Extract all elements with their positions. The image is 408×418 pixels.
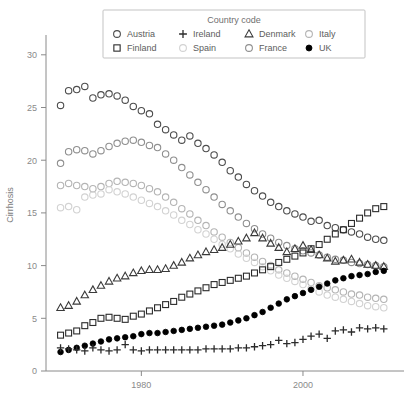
x-tick-label: 1980 <box>131 380 151 390</box>
data-point <box>324 222 330 228</box>
data-point <box>243 273 249 279</box>
data-point <box>162 265 169 272</box>
data-point <box>292 211 298 217</box>
data-point <box>324 236 330 242</box>
data-point <box>139 331 145 337</box>
data-point <box>283 340 290 347</box>
chart-root: 05101520253019802000Cirrhosis Country co… <box>0 0 408 418</box>
axes-layer: 05101520253019802000Cirrhosis <box>5 35 404 390</box>
data-point <box>324 281 330 287</box>
data-point <box>97 282 104 289</box>
data-point <box>211 282 217 288</box>
data-point <box>162 346 169 353</box>
data-point <box>348 291 354 297</box>
data-point <box>114 140 120 146</box>
data-point <box>211 236 217 242</box>
legend-item-label: Ireland <box>193 29 221 39</box>
data-point <box>186 346 193 353</box>
data-point <box>227 168 233 174</box>
data-point <box>251 188 257 194</box>
data-point <box>146 346 153 353</box>
data-point <box>364 325 371 332</box>
data-point <box>179 294 185 300</box>
data-point <box>106 91 112 97</box>
data-point <box>130 194 136 200</box>
legend-item-finland[interactable]: Finland <box>114 43 157 53</box>
data-point <box>163 329 169 335</box>
data-point <box>299 336 306 343</box>
data-point <box>211 194 217 200</box>
data-point <box>187 172 193 178</box>
data-point <box>74 182 80 188</box>
data-point <box>187 221 193 227</box>
data-point <box>114 315 120 321</box>
data-point <box>332 231 338 237</box>
legend-item-label: Spain <box>193 43 216 53</box>
data-point <box>283 248 290 255</box>
data-points-layer <box>57 83 388 355</box>
data-point <box>227 246 233 252</box>
data-point <box>210 246 217 253</box>
data-point <box>98 92 104 98</box>
scatter-plot: 05101520253019802000Cirrhosis Country co… <box>0 0 408 418</box>
legend-item-label: Austria <box>127 29 155 39</box>
data-point <box>138 267 145 274</box>
data-point <box>122 341 129 348</box>
data-point <box>65 180 71 186</box>
data-point <box>356 300 362 306</box>
data-point <box>373 295 379 301</box>
data-point <box>138 182 144 188</box>
data-point <box>373 236 379 242</box>
data-point <box>235 244 241 250</box>
data-point <box>170 346 177 353</box>
data-point <box>316 284 322 290</box>
data-point <box>130 333 136 339</box>
data-point <box>348 255 355 262</box>
data-point <box>81 347 88 354</box>
data-point <box>308 287 314 293</box>
data-point <box>122 334 128 340</box>
data-point <box>219 234 225 240</box>
data-point <box>195 227 201 233</box>
data-point <box>227 345 234 352</box>
data-point <box>340 296 346 302</box>
data-point <box>138 197 144 203</box>
data-point <box>251 343 258 350</box>
data-point <box>138 311 144 317</box>
data-point <box>138 139 144 145</box>
data-point <box>179 164 185 170</box>
data-point <box>106 314 112 320</box>
data-point <box>291 339 298 346</box>
data-point <box>357 272 363 278</box>
data-point <box>171 328 177 334</box>
data-point <box>57 102 63 108</box>
data-point <box>235 275 241 281</box>
data-point <box>130 269 137 276</box>
legend-item-label: Finland <box>127 43 157 53</box>
data-point <box>170 199 176 205</box>
data-point <box>146 142 152 148</box>
data-point <box>381 268 387 274</box>
data-point <box>82 323 88 329</box>
data-point <box>373 304 379 310</box>
data-point <box>203 324 209 330</box>
data-point <box>65 302 72 309</box>
data-point <box>333 278 339 284</box>
legend-item-label: France <box>259 43 287 53</box>
data-point <box>235 237 242 244</box>
y-axis-title: Cirrhosis <box>5 187 15 223</box>
data-point <box>235 344 242 351</box>
data-point <box>162 194 168 200</box>
data-point <box>236 318 242 324</box>
circle-filled-icon <box>306 45 312 51</box>
data-point <box>324 292 330 298</box>
data-point <box>74 146 80 152</box>
data-point <box>203 285 209 291</box>
data-point <box>357 215 363 221</box>
data-point <box>187 291 193 297</box>
data-point <box>308 218 314 224</box>
data-point <box>300 214 306 220</box>
data-point <box>66 330 72 336</box>
data-point <box>170 262 177 269</box>
data-point <box>146 308 152 314</box>
